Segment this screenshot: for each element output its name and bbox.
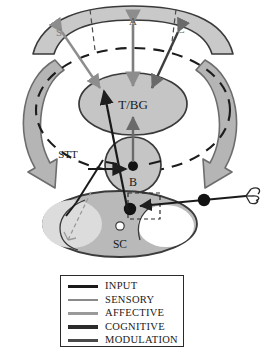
cortex-label-c: C (177, 23, 184, 35)
legend-label-modulation: MODULATION (105, 335, 178, 346)
legend-item: INPUT (61, 280, 183, 293)
legend-label-cognitive: COGNITIVE (105, 322, 165, 333)
dorsal-root-ganglion (198, 194, 210, 206)
modulation-loop-arrow-left (23, 60, 64, 188)
brainstem-node (128, 161, 138, 171)
legend-label-affective: AFFECTIVE (105, 308, 164, 319)
legend-label-input: INPUT (105, 281, 137, 292)
legend-label-sensory: SENSORY (105, 295, 154, 306)
modulation-loop-arrow-right (196, 60, 237, 188)
legend-item: AFFECTIVE (61, 307, 183, 320)
stt-label: STT (58, 148, 78, 160)
legend-swatch-modulation (68, 339, 98, 342)
legend-item: MODULATION (61, 334, 183, 347)
central-canal (116, 222, 124, 230)
pain-network-diagram: S A C T/BG B SC STT INPUT SENSORY AFFECT… (0, 0, 267, 359)
legend-swatch-input (68, 285, 98, 288)
legend-swatch-cognitive (68, 325, 98, 328)
cortex-label-s: S (56, 26, 62, 38)
brainstem-label: B (129, 175, 137, 189)
spinal-cord-label: SC (113, 238, 127, 250)
free-nerve-ending-icon (246, 188, 260, 204)
legend-swatch-sensory (68, 299, 98, 302)
legend-swatch-affective (68, 312, 98, 315)
legend-item: COGNITIVE (61, 321, 183, 334)
legend-item: SENSORY (61, 294, 183, 307)
legend: INPUT SENSORY AFFECTIVE COGNITIVE MODULA… (60, 275, 184, 347)
cortex-label-a: A (129, 15, 137, 27)
thalamus-label: T/BG (118, 97, 148, 112)
